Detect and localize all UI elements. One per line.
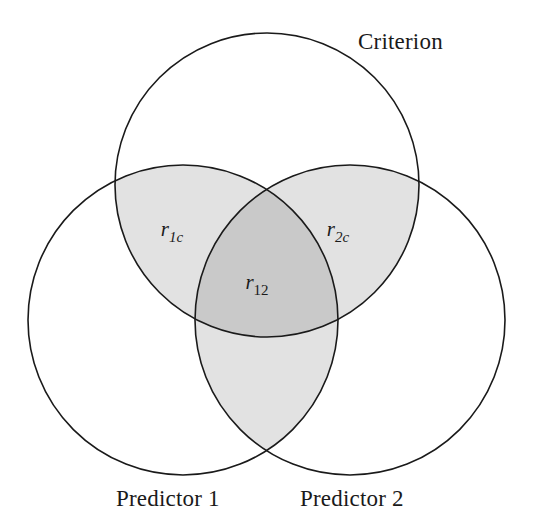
predictor-1-label: Predictor 1 bbox=[116, 487, 220, 510]
predictor-2-label: Predictor 2 bbox=[300, 487, 404, 510]
region-label-r1c-sub: 1c bbox=[169, 229, 184, 245]
region-label-r2c-sub: 2c bbox=[335, 229, 350, 245]
venn-diagram: r1c r2c r12 Criterion Predictor 1 Predic… bbox=[0, 0, 533, 526]
venn-diagram-canvas: r1c r2c r12 bbox=[0, 0, 533, 526]
criterion-label: Criterion bbox=[358, 30, 443, 53]
region-label-r12-sub: 12 bbox=[254, 282, 269, 298]
